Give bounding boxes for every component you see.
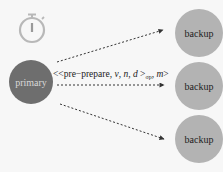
primary-node: primary xyxy=(9,60,53,104)
msg-prefix: <<pre−prepare, xyxy=(53,69,114,79)
primary-label: primary xyxy=(15,77,47,88)
stopwatch-icon xyxy=(20,15,44,43)
backup-label: backup xyxy=(185,28,214,39)
diagram-canvas: primary backup backup backup xyxy=(0,0,223,172)
arrow-to-backup-3 xyxy=(60,104,164,139)
backup-label: backup xyxy=(185,81,214,92)
backup-node-1: backup xyxy=(175,9,223,57)
backup-label: backup xyxy=(185,134,214,145)
pre-prepare-message-label: <<pre−prepare, v, n, d >σp, m> xyxy=(53,69,169,80)
msg-suffix: > xyxy=(163,69,168,79)
arrow-to-backup-1 xyxy=(57,30,163,62)
message-arrows xyxy=(57,30,164,139)
backup-node-2: backup xyxy=(175,62,223,110)
backup-node-3: backup xyxy=(175,115,223,163)
